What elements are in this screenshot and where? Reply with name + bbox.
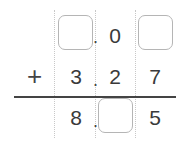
answer-box-row1-hundredths[interactable]: [138, 15, 173, 50]
digit-row2-hundredths: 7: [135, 66, 175, 87]
plus-sign: +: [27, 63, 42, 89]
column-divider: [54, 10, 55, 138]
sum-line: [14, 96, 176, 98]
digit-row2-ones: 3: [56, 66, 96, 87]
answer-box-result-tenths[interactable]: [98, 98, 133, 133]
digit-result-ones: 8: [56, 107, 96, 128]
answer-box-row1-ones[interactable]: [58, 15, 93, 50]
digit-row2-tenths: 2: [95, 66, 135, 87]
digit-result-hundredths: 5: [135, 107, 175, 128]
digit-row1-tenths: 0: [95, 25, 135, 46]
